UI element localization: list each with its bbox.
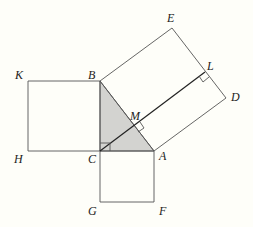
right-angle-mark-l	[199, 76, 209, 82]
label-h: H	[13, 152, 24, 166]
square-cafg	[100, 151, 154, 202]
label-k: K	[14, 68, 24, 82]
label-l: L	[206, 59, 214, 73]
label-m: M	[129, 109, 141, 123]
label-a: A	[158, 149, 167, 163]
label-b: B	[88, 68, 96, 82]
right-angle-mark-m	[138, 122, 144, 132]
label-c: C	[88, 152, 97, 166]
label-d: D	[230, 90, 240, 104]
label-f: F	[158, 204, 167, 218]
label-g: G	[88, 204, 97, 218]
label-e: E	[166, 11, 175, 25]
square-bchk	[28, 81, 100, 151]
pythagorean-diagram: K B E L D M H C A G F	[0, 0, 253, 227]
